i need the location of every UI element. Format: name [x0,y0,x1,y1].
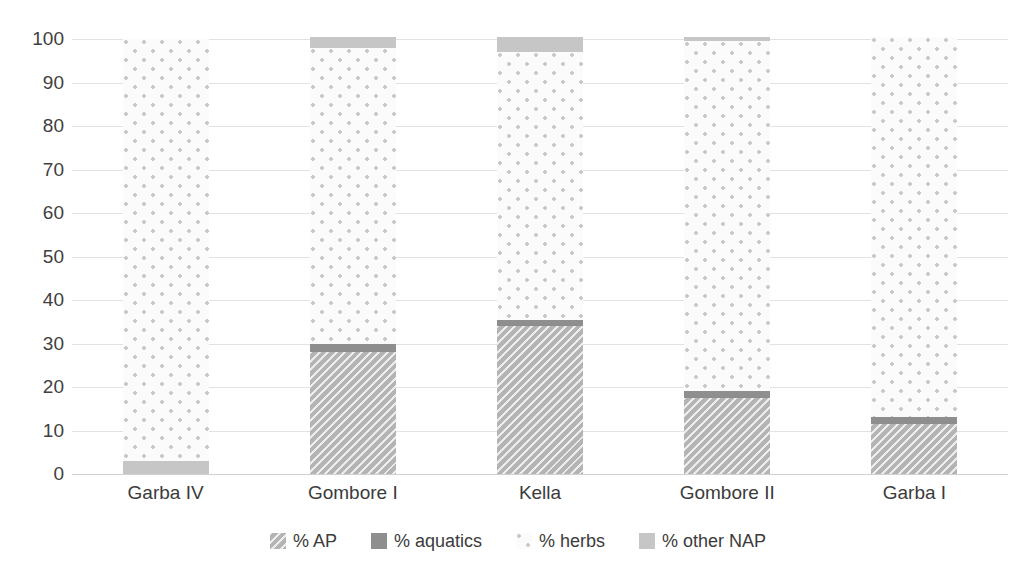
bar-segment[interactable] [497,52,583,320]
other-nap-swatch-icon [639,533,655,549]
bar-group[interactable] [684,39,770,474]
legend-label: % other NAP [662,531,766,551]
y-axis-tick-80: 80 [8,116,64,135]
legend-label: % aquatics [394,531,482,551]
y-axis-tick-70: 70 [8,160,64,179]
plot-area [72,39,1008,474]
herbs-swatch-icon [516,533,532,549]
x-axis-label: Garba I [824,482,1004,504]
y-axis: 1009080706050403020100 [0,39,64,474]
y-axis-tick-50: 50 [8,247,64,266]
x-axis-label: Gombore II [637,482,817,504]
bar-segment[interactable] [497,320,583,327]
stacked-bar-chart: 1009080706050403020100 Garba IVGombore I… [0,0,1036,570]
bar-segment[interactable] [497,326,583,474]
bar-segment[interactable] [684,391,770,398]
y-axis-tick-90: 90 [8,73,64,92]
aquatics-swatch-icon [371,533,387,549]
y-axis-tick-0: 0 [8,464,64,483]
bar-segment[interactable] [684,398,770,474]
legend-label: % AP [293,531,337,551]
y-axis-tick-40: 40 [8,290,64,309]
bar-segment[interactable] [310,37,396,48]
bar-segment[interactable] [123,39,209,461]
chart-legend: % AP% aquatics% herbs% other NAP [0,528,1036,554]
legend-label: % herbs [539,531,605,551]
bar-segment[interactable] [497,37,583,52]
y-axis-tick-30: 30 [8,334,64,353]
legend-item[interactable]: % AP [270,531,337,551]
x-axis: Garba IVGombore IKellaGombore IIGarba I [72,482,1008,510]
bar-segment[interactable] [310,48,396,344]
gridline-0 [72,474,1008,475]
bar-group[interactable] [871,39,957,474]
bar-group[interactable] [310,39,396,474]
legend-item[interactable]: % herbs [516,531,605,551]
y-axis-tick-100: 100 [8,29,64,48]
bar-segment[interactable] [684,41,770,391]
bar-segment[interactable] [871,424,957,474]
bar-segment[interactable] [684,37,770,41]
x-axis-label: Gombore I [263,482,443,504]
y-axis-tick-20: 20 [8,377,64,396]
bar-segment[interactable] [310,344,396,353]
y-axis-tick-60: 60 [8,203,64,222]
bar-group[interactable] [497,39,583,474]
bar-segment[interactable] [310,352,396,474]
y-axis-tick-10: 10 [8,421,64,440]
legend-item[interactable]: % aquatics [371,531,482,551]
legend-item[interactable]: % other NAP [639,531,766,551]
x-axis-label: Kella [450,482,630,504]
bar-segment[interactable] [871,37,957,418]
x-axis-label: Garba IV [76,482,256,504]
bar-segment[interactable] [123,461,209,474]
bar-group[interactable] [123,39,209,474]
ap-swatch-icon [270,533,286,549]
bar-segment[interactable] [871,417,957,424]
